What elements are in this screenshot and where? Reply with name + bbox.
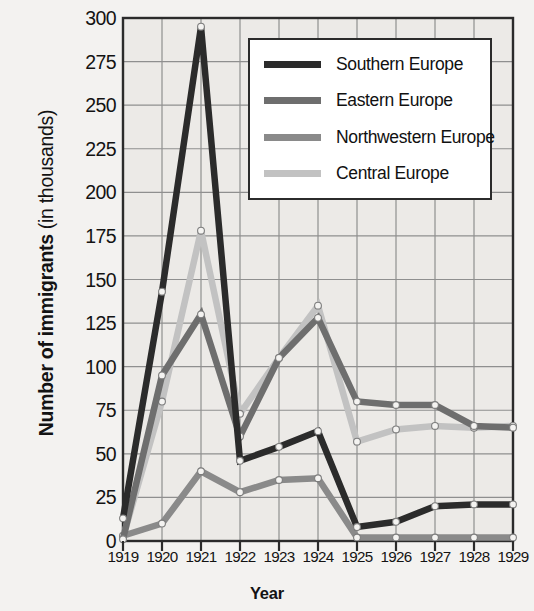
data-point-marker — [354, 534, 361, 541]
data-point-marker — [393, 518, 400, 525]
data-point-marker — [393, 402, 400, 409]
legend-swatch-icon — [264, 61, 321, 68]
data-point-marker — [471, 501, 478, 508]
legend-label: Eastern Europe — [336, 90, 453, 111]
data-point-marker — [432, 402, 439, 409]
data-point-marker — [315, 314, 322, 321]
data-point-marker — [354, 438, 361, 445]
legend-item: Southern Europe — [264, 54, 490, 75]
data-point-marker — [159, 520, 166, 527]
data-point-marker — [393, 426, 400, 433]
data-point-marker — [510, 534, 517, 541]
data-point-marker — [237, 489, 244, 496]
data-point-marker — [510, 424, 517, 431]
data-point-marker — [276, 443, 283, 450]
data-point-marker — [471, 534, 478, 541]
data-point-marker — [198, 227, 205, 234]
x-axis-title: Year — [0, 584, 534, 603]
data-point-marker — [315, 428, 322, 435]
chart-legend: Southern EuropeEastern EuropeNorthwester… — [248, 38, 492, 200]
data-point-marker — [198, 468, 205, 475]
data-point-marker — [432, 423, 439, 430]
legend-item: Northwestern Europe — [264, 127, 490, 148]
legend-item: Central Europe — [264, 163, 490, 184]
data-point-marker — [354, 524, 361, 531]
data-point-marker — [510, 501, 517, 508]
data-point-marker — [276, 477, 283, 484]
data-point-marker — [159, 372, 166, 379]
legend-label: Southern Europe — [336, 54, 463, 75]
data-point-marker — [198, 311, 205, 318]
legend-swatch-icon — [264, 97, 321, 104]
data-point-marker — [315, 302, 322, 309]
data-point-marker — [471, 423, 478, 430]
data-point-marker — [276, 355, 283, 362]
legend-label: Northwestern Europe — [336, 127, 495, 148]
data-point-marker — [198, 23, 205, 30]
legend-item: Eastern Europe — [264, 90, 490, 111]
legend-swatch-icon — [264, 170, 321, 177]
data-point-marker — [315, 475, 322, 482]
legend-label: Central Europe — [336, 163, 449, 184]
data-point-marker — [354, 398, 361, 405]
data-point-marker — [237, 457, 244, 464]
legend-swatch-icon — [264, 134, 321, 141]
data-point-marker — [432, 503, 439, 510]
data-point-marker — [120, 515, 127, 522]
data-point-marker — [432, 534, 439, 541]
data-point-marker — [393, 534, 400, 541]
data-point-marker — [159, 288, 166, 295]
immigration-line-chart: Number of immigrants (in thousands) 3002… — [0, 0, 534, 611]
